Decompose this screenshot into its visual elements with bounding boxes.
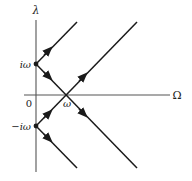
point-negiw-label: −iω [11, 121, 31, 132]
bifurcation-diagram: λ Ω 0 iω −iω ω [0, 0, 192, 181]
point-negiw [34, 124, 39, 129]
arrow-icon [79, 109, 84, 114]
branch-iw-down [36, 64, 137, 168]
branch-negiw-up [36, 22, 137, 126]
branch-iw-up [36, 22, 77, 64]
y-axis-label: λ [32, 4, 40, 17]
x-axis-label: Ω [172, 89, 181, 102]
axes [24, 20, 170, 172]
arrow-icon [44, 72, 49, 77]
arrow-icon [44, 113, 49, 118]
point-iw [34, 62, 39, 67]
arrow-icon [79, 76, 84, 81]
point-iw-label: iω [20, 59, 31, 70]
arrow-icon [44, 134, 49, 139]
branch-negiw-down [36, 126, 77, 168]
origin-label: 0 [26, 98, 32, 109]
crossing-label: ω [63, 98, 71, 109]
